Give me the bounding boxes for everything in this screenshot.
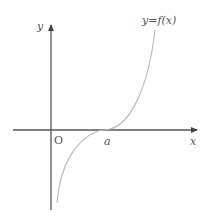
curve-label: y=f(x) [141, 14, 176, 27]
function-graph: y O a x y=f(x) [0, 0, 210, 223]
y-axis-label: y [36, 20, 44, 33]
point-a-label: a [104, 135, 111, 148]
graph-canvas: y O a x y=f(x) [0, 0, 210, 223]
function-curve [57, 30, 155, 203]
origin-label: O [54, 134, 63, 147]
x-axis-label: x [190, 135, 197, 148]
